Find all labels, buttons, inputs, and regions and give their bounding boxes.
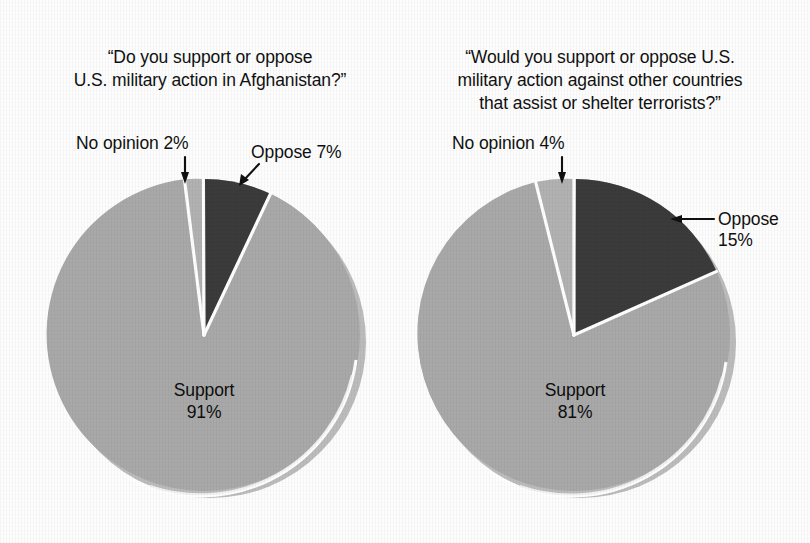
right-no-opinion-label: No opinion 4%: [452, 133, 565, 154]
right-oppose-label: Oppose 15%: [718, 209, 779, 252]
left-chart-title: “Do you support or oppose U.S. military …: [40, 46, 380, 92]
pie-chart-figure: “Do you support or oppose U.S. military …: [0, 0, 810, 543]
left-support-label: Support 91%: [134, 380, 274, 423]
right-chart-title: “Would you support or oppose U.S. milita…: [412, 46, 788, 115]
left-oppose-label: Oppose 7%: [251, 142, 342, 163]
left-oppose-arrow: [239, 164, 259, 186]
left-no-opinion-label: No opinion 2%: [76, 133, 189, 154]
right-pie-chart: [417, 179, 736, 498]
left-pie-chart: [47, 179, 366, 498]
right-support-label: Support 81%: [505, 380, 645, 423]
